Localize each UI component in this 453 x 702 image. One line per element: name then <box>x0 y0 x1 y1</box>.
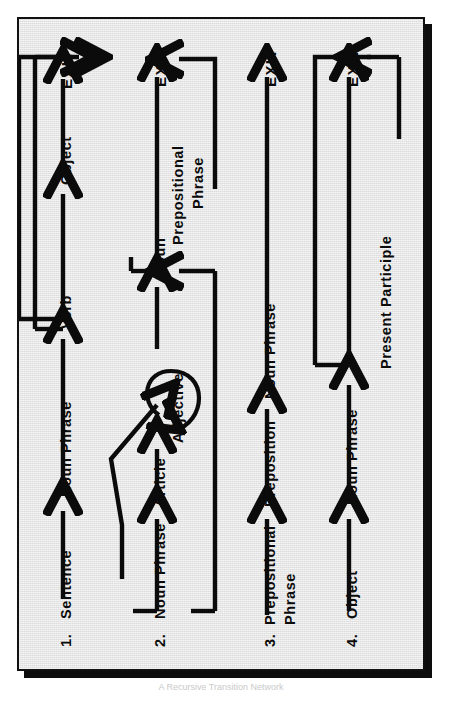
row-4-exit: EXIT <box>345 48 360 87</box>
row-3-node-preposition: Preposition <box>263 421 278 507</box>
row-4-node-present-participle: Present Participle <box>379 236 394 369</box>
row-1-exit: EXIT <box>59 50 74 89</box>
figure-caption: A Recursive Transition Network <box>17 682 425 700</box>
row-3-exit: EXIT <box>263 48 278 87</box>
row-3-name-line1: Prepositional <box>263 525 278 625</box>
row-2-exit: EXIT <box>153 48 168 87</box>
row-2-node-adjective: Adjective <box>171 373 186 443</box>
row-2-number: 2. <box>153 634 168 647</box>
row-4-number: 4. <box>345 634 360 647</box>
row-3-name-line2: Phrase <box>283 573 298 625</box>
row-2-node-noun: Noun <box>153 238 168 277</box>
row-1-number: 1. <box>59 634 74 647</box>
row-2-node-article: Article <box>153 458 168 507</box>
r2-bypass-article-skip <box>111 405 157 579</box>
syntax-diagram-figure: 1. Sentence Noun Phrase Verb Object EXIT… <box>17 17 425 671</box>
row-3-node-noun-phrase: Noun Phrase <box>263 303 278 399</box>
diagram-arrows <box>19 19 425 671</box>
row-3-number: 3. <box>263 634 278 647</box>
row-2-branch-prepositional: Prepositional <box>171 145 186 245</box>
r4-bypass-path <box>315 57 371 365</box>
row-1-node-object: Object <box>59 136 74 185</box>
row-4-name: Object <box>345 570 360 619</box>
row-2-branch-phrase: Phrase <box>191 157 206 209</box>
r1-bypass-verb-to-exit <box>19 57 79 319</box>
row-1-node-verb: Verb <box>59 295 74 329</box>
row-2-name: Noun Phrase <box>153 523 168 619</box>
row-1-node-noun-phrase: Noun Phrase <box>59 401 74 497</box>
row-1-name: Sentence <box>59 550 74 619</box>
row-4-node-noun-phrase: Noun Phrase <box>345 409 360 505</box>
